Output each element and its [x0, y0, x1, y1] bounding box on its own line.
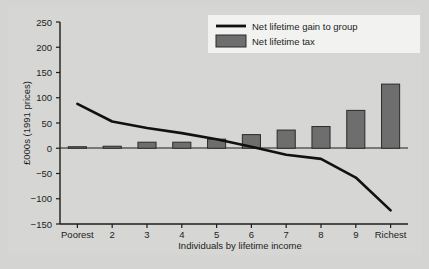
bar — [103, 146, 121, 148]
y-axis-title: £000s (1991 prices) — [21, 81, 32, 165]
x-tick-label: 3 — [144, 229, 149, 240]
bar — [382, 84, 400, 148]
legend-label-bar: Net lifetime tax — [252, 36, 315, 47]
y-tick-label: 0 — [47, 143, 52, 154]
bar — [277, 130, 295, 148]
y-tick-label: 150 — [36, 67, 52, 78]
x-tick-label: 8 — [318, 229, 323, 240]
bar — [347, 110, 365, 148]
y-tick-label: 100 — [36, 92, 52, 103]
x-tick-label: 6 — [249, 229, 254, 240]
y-tick-label: 50 — [41, 118, 52, 129]
x-tick-label-group: Poorest23456789Richest — [61, 229, 407, 240]
x-tick-label: Poorest — [61, 229, 94, 240]
x-axis-title: Individuals by lifetime income — [178, 240, 302, 251]
legend-swatch-marker — [216, 35, 246, 47]
y-tick-label: 250 — [36, 17, 52, 28]
x-tick-label: 4 — [179, 229, 184, 240]
x-tick-label: 7 — [284, 229, 289, 240]
figure-container: −150−100−50050100150200250 Poorest234567… — [0, 0, 429, 269]
bar — [173, 142, 191, 148]
y-tick-label: −50 — [36, 168, 52, 179]
y-tick-label: −150 — [31, 219, 52, 230]
bar — [312, 127, 330, 149]
line-series-net-lifetime-gain — [77, 104, 390, 211]
x-tick-label: Richest — [375, 229, 407, 240]
chart-svg: −150−100−50050100150200250 Poorest234567… — [0, 0, 429, 269]
y-tick-label: 200 — [36, 42, 52, 53]
x-tick-label: 5 — [214, 229, 219, 240]
bar-series-net-lifetime-tax — [68, 84, 399, 148]
y-tick-label-group: −150−100−50050100150200250 — [31, 17, 52, 230]
bar — [138, 142, 156, 148]
x-tick-label: 2 — [110, 229, 115, 240]
legend-label-line: Net lifetime gain to group — [252, 21, 358, 32]
x-tick-label: 9 — [353, 229, 358, 240]
bar — [68, 147, 86, 149]
y-tick-label: −100 — [31, 193, 52, 204]
